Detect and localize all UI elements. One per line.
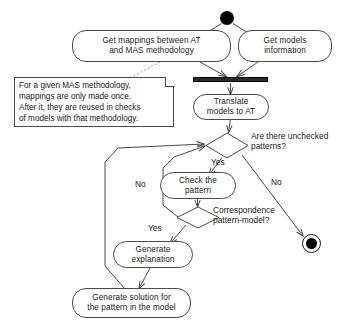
edge-decision2-no-arrowhead [174, 146, 205, 157]
edge-label-unchecked-yes: Yes [211, 158, 225, 168]
final-state-node [302, 234, 321, 253]
decision-unchecked-patterns[interactable] [205, 132, 249, 159]
activity-generate-solution[interactable]: Generate solution for the pattern in the… [72, 288, 191, 318]
edge-explanation-to-solution [139, 268, 150, 289]
edge-label-correspondence-no: No [135, 180, 146, 190]
fork-join-bar [193, 77, 268, 82]
activity-generate-explanation[interactable]: Generate explanation [113, 241, 193, 268]
edge-get-mappings-to-bar [200, 62, 226, 77]
edge-translate-to-decision1 [229, 119, 231, 133]
activity-check-the-pattern[interactable]: Check the pattern [160, 172, 236, 199]
initial-state-node [220, 11, 234, 25]
mapping-note: For a given MAS methodology, mappings ar… [14, 77, 174, 127]
activity-diagram-canvas: Get mappings between AT and MAS methodol… [0, 0, 341, 331]
decision-label-correspondence: Correspondence pattern-model? [213, 205, 299, 225]
edge-label-unchecked-no: No [271, 178, 282, 188]
edge-label-correspondence-yes: Yes [148, 224, 162, 234]
decision-label-unchecked-patterns: Are there unchecked patterns? [251, 131, 341, 151]
note-fold-corner [165, 77, 175, 87]
edge-solution-loopback-segment [105, 148, 125, 289]
edge-get-models-to-bar [237, 62, 258, 77]
activity-get-models-information[interactable]: Get models information [238, 30, 332, 62]
note-anchor-line [130, 62, 160, 78]
activity-get-mappings[interactable]: Get mappings between AT and MAS methodol… [72, 30, 231, 62]
edge-solution-loopback-arrowhead [118, 144, 204, 148]
activity-translate-models-to-at[interactable]: Translate models to AT [193, 94, 269, 120]
final-state-inner-dot [306, 238, 317, 249]
